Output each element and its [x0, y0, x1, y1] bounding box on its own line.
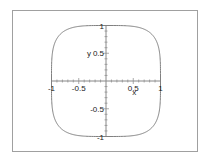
- axes: [52, 26, 161, 137]
- y-axis-label: y: [87, 49, 91, 58]
- y-tick-label: 1: [100, 22, 105, 31]
- y-tick-label: 0.5: [93, 49, 105, 58]
- x-tick-label: -0.5: [72, 84, 86, 93]
- x-tick-label: -1: [48, 84, 56, 93]
- y-tick-label: -1: [97, 133, 105, 142]
- x-tick-label: 1: [158, 84, 163, 93]
- y-tick-label: -0.5: [90, 105, 104, 114]
- plot-canvas: -1-0.50.5110.5-0.5-1xy: [0, 0, 210, 163]
- x-axis-label: x: [132, 88, 136, 97]
